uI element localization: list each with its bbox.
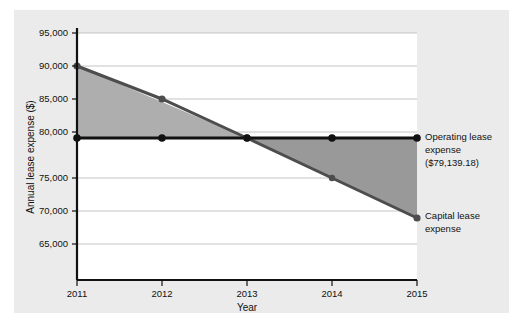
operating-marker-2012 [158, 134, 166, 142]
xtick-label-2015: 2015 [406, 288, 427, 299]
ytick-label-70000: 70,000 [39, 205, 68, 216]
capital-marker-2014 [329, 175, 335, 181]
xtick-label-2013: 2013 [236, 288, 257, 299]
ytick-label-65000: 65,000 [39, 238, 68, 249]
capital-marker-2015 [413, 214, 420, 221]
ytick-label-80000: 80,000 [39, 126, 68, 137]
ytick-label-75000: 75,000 [39, 172, 68, 183]
ytick-label-85000: 85,000 [39, 93, 68, 104]
capital-marker-2012 [158, 95, 165, 102]
operating-marker-2013 [243, 134, 251, 142]
operating-lease-annotation-line3: ($79,139.18) [425, 157, 479, 168]
operating-marker-2015 [413, 134, 421, 142]
capital-lease-annotation-line2: expense [425, 223, 461, 234]
ytick-label-90000: 90,000 [39, 60, 68, 71]
ytick-label-95000: 95,000 [39, 27, 68, 38]
line-chart: 95,000 90,000 85,000 80,000 75,000 70,00… [0, 0, 523, 336]
xtick-label-2014: 2014 [321, 288, 342, 299]
operating-marker-2014 [328, 134, 336, 142]
chart-figure: 95,000 90,000 85,000 80,000 75,000 70,00… [0, 0, 523, 336]
xtick-label-2012: 2012 [151, 288, 172, 299]
capital-lease-annotation-line1: Capital lease [425, 210, 480, 221]
y-axis-title: Annual lease expense ($) [25, 100, 36, 213]
x-axis-title: Year [237, 302, 258, 313]
operating-lease-annotation-line1: Operating lease [425, 131, 492, 142]
xtick-label-2011: 2011 [67, 288, 87, 299]
operating-lease-annotation-line2: expense [425, 144, 461, 155]
